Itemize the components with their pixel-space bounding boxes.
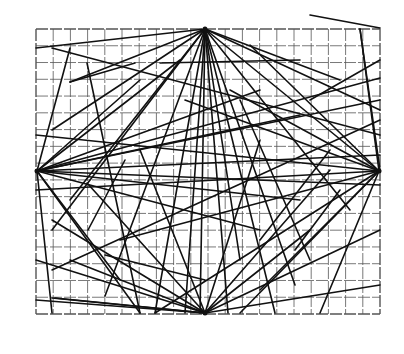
hub-point-left xyxy=(35,169,40,174)
line-segment xyxy=(120,171,379,240)
hub-point-bottom xyxy=(203,311,208,316)
line-segment xyxy=(310,15,380,28)
diagram-canvas xyxy=(0,0,404,354)
line-segment xyxy=(105,29,205,296)
line-segment xyxy=(205,29,240,260)
hub-point-right xyxy=(377,169,382,174)
line-segment xyxy=(205,29,228,313)
line-segment xyxy=(205,230,380,313)
line-segment xyxy=(37,171,52,313)
line-segment xyxy=(320,171,379,313)
line-segment xyxy=(155,29,205,313)
hub-point-top xyxy=(203,27,208,32)
line-segment xyxy=(205,140,260,313)
line-segment xyxy=(205,29,380,110)
line-diagram xyxy=(0,0,404,354)
line-segment xyxy=(205,285,380,313)
